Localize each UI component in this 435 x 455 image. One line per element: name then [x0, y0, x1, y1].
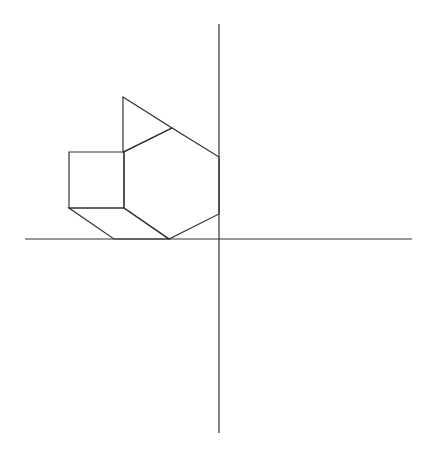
- diagram-canvas: [0, 0, 435, 455]
- hexagon-shape: [124, 128, 219, 239]
- square-shape: [69, 152, 124, 208]
- triangle-shape: [123, 97, 172, 152]
- rhombus-shape: [69, 208, 169, 239]
